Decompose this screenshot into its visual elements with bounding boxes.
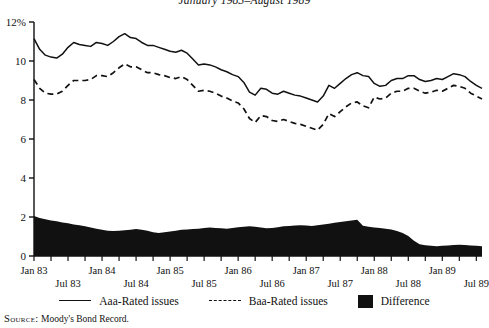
svg-text:Jul 88: Jul 88: [396, 278, 421, 289]
svg-text:Jul 83: Jul 83: [55, 278, 80, 289]
svg-text:Jan 85: Jan 85: [157, 265, 184, 276]
legend-label-difference: Difference: [381, 295, 430, 307]
svg-text:Jul 89: Jul 89: [464, 278, 489, 289]
svg-text:Jan 89: Jan 89: [429, 265, 456, 276]
svg-text:4: 4: [21, 172, 27, 184]
source-note: Source: Moody's Bond Record.: [4, 313, 129, 324]
svg-text:0: 0: [21, 250, 27, 262]
svg-text:Jan 83: Jan 83: [20, 265, 47, 276]
dashed-line-icon: [209, 295, 241, 307]
svg-text:2: 2: [21, 211, 27, 223]
chart-figure: January 1983–August 1989 024681012% Jan …: [0, 0, 489, 328]
baa-rated-line-series: [34, 64, 482, 130]
svg-text:Jan 84: Jan 84: [88, 265, 116, 276]
svg-text:Jul 87: Jul 87: [328, 278, 353, 289]
source-text: Moody's Bond Record.: [41, 314, 129, 324]
svg-text:8: 8: [21, 94, 27, 106]
legend-item-aaa: Aaa-Rated issues: [59, 295, 179, 307]
legend-item-baa: Baa-Rated issues: [209, 295, 328, 307]
svg-text:6: 6: [21, 133, 27, 145]
source-label: Source:: [4, 313, 39, 324]
legend-item-difference: Difference: [358, 295, 430, 308]
legend-label-baa: Baa-Rated issues: [249, 295, 328, 307]
chart-legend: Aaa-Rated issues Baa-Rated issues Differ…: [0, 290, 489, 312]
aaa-rated-line-series: [34, 34, 482, 102]
svg-text:10: 10: [15, 55, 27, 67]
svg-text:Jul 85: Jul 85: [191, 278, 216, 289]
y-axis: 024681012%: [6, 16, 34, 262]
svg-text:Jul 84: Jul 84: [123, 278, 149, 289]
x-axis: [34, 256, 482, 261]
difference-area-series: [34, 216, 482, 256]
filled-block-icon: [358, 295, 373, 308]
svg-text:12%: 12%: [6, 16, 26, 28]
svg-text:Jul 86: Jul 86: [259, 278, 284, 289]
svg-text:Jan 87: Jan 87: [293, 265, 320, 276]
svg-text:Jan 86: Jan 86: [225, 265, 252, 276]
svg-text:Jan 88: Jan 88: [361, 265, 388, 276]
solid-line-icon: [59, 295, 91, 307]
x-axis-tick-labels: Jan 83Jan 84Jan 85Jan 86Jan 87Jan 88Jan …: [20, 265, 489, 289]
bond-yield-chart-plot: 024681012% Jan 83Jan 84Jan 85Jan 86Jan 8…: [0, 0, 489, 290]
legend-label-aaa: Aaa-Rated issues: [99, 295, 179, 307]
